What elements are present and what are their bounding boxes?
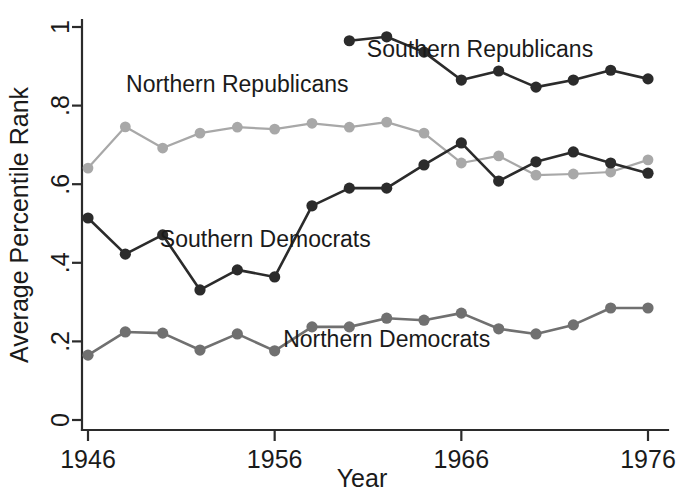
data-point bbox=[568, 169, 579, 180]
data-point bbox=[344, 183, 355, 194]
data-point bbox=[269, 345, 280, 356]
data-point bbox=[605, 302, 616, 313]
data-point bbox=[194, 284, 205, 295]
y-tick-label: .8 bbox=[46, 95, 74, 116]
series-line-southern-democrats bbox=[88, 143, 648, 290]
data-point bbox=[194, 344, 205, 355]
data-point bbox=[232, 264, 243, 275]
data-point bbox=[120, 249, 131, 260]
data-point bbox=[381, 117, 392, 128]
data-point bbox=[83, 163, 94, 174]
data-point bbox=[456, 308, 467, 319]
data-point bbox=[493, 175, 504, 186]
data-point bbox=[82, 212, 93, 223]
data-point bbox=[530, 82, 541, 93]
series-label-northern-democrats: Northern Democrats bbox=[283, 326, 490, 352]
data-point bbox=[344, 122, 355, 133]
y-axis-ticks: 0.2.4.6.81 bbox=[46, 20, 82, 427]
x-tick-label: 1966 bbox=[434, 445, 490, 473]
data-point bbox=[157, 328, 168, 339]
chart-container: 0.2.4.6.81 1946195619661976 Southern Rep… bbox=[0, 0, 691, 493]
x-axis-title: Year bbox=[337, 464, 388, 492]
y-tick-label: 1 bbox=[46, 20, 74, 34]
data-point bbox=[568, 146, 579, 157]
y-tick-label: .6 bbox=[46, 174, 74, 195]
data-point bbox=[605, 157, 616, 168]
series-line-northern-republicans bbox=[88, 122, 648, 175]
data-point bbox=[82, 350, 93, 361]
series-annotations-group: Southern RepublicansNorthern Republicans… bbox=[126, 36, 593, 353]
data-point bbox=[531, 170, 542, 181]
series-label-northern-republicans: Northern Republicans bbox=[126, 71, 348, 97]
data-point bbox=[232, 122, 243, 133]
data-point bbox=[120, 326, 131, 337]
data-point bbox=[344, 35, 355, 46]
data-point bbox=[643, 154, 654, 165]
x-tick-label: 1956 bbox=[247, 445, 303, 473]
series-label-southern-democrats: Southern Democrats bbox=[160, 226, 371, 252]
data-point bbox=[568, 319, 579, 330]
x-tick-label: 1976 bbox=[620, 445, 676, 473]
data-point bbox=[530, 328, 541, 339]
y-tick-label: .2 bbox=[46, 331, 74, 352]
data-point bbox=[418, 159, 429, 170]
data-point bbox=[381, 313, 392, 324]
data-point bbox=[120, 121, 131, 132]
data-point bbox=[456, 74, 467, 85]
data-point bbox=[195, 128, 206, 139]
data-point bbox=[493, 323, 504, 334]
data-point bbox=[418, 315, 429, 326]
y-tick-label: 0 bbox=[46, 413, 74, 427]
data-point bbox=[456, 158, 467, 169]
data-point bbox=[568, 74, 579, 85]
data-point bbox=[642, 73, 653, 84]
y-tick-label: .4 bbox=[46, 252, 74, 273]
y-axis-title: Average Percentile Rank bbox=[5, 86, 33, 363]
data-point bbox=[642, 168, 653, 179]
data-point bbox=[269, 271, 280, 282]
series-label-southern-republicans: Southern Republicans bbox=[367, 36, 593, 62]
data-point bbox=[306, 200, 317, 211]
data-point bbox=[381, 183, 392, 194]
data-point bbox=[456, 137, 467, 148]
data-point bbox=[605, 65, 616, 76]
data-point bbox=[307, 118, 318, 129]
data-point bbox=[269, 124, 280, 135]
data-point bbox=[642, 302, 653, 313]
data-point bbox=[493, 65, 504, 76]
data-point bbox=[232, 328, 243, 339]
data-point bbox=[419, 128, 430, 139]
data-point bbox=[157, 143, 168, 154]
line-chart-plot: 0.2.4.6.81 1946195619661976 Southern Rep… bbox=[0, 0, 691, 493]
data-point bbox=[493, 151, 504, 162]
data-point bbox=[530, 156, 541, 167]
x-tick-label: 1946 bbox=[60, 445, 116, 473]
